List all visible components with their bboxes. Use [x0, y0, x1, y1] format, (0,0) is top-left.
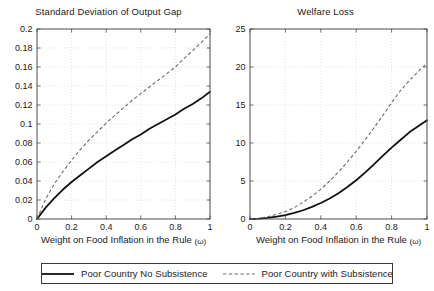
x-tick-label: 0	[34, 222, 39, 232]
y-tick-label: 0	[240, 214, 245, 224]
y-tick-label: 0.14	[15, 81, 33, 91]
y-tick-label: 0.06	[15, 157, 33, 167]
chart-panel-standard-deviation: Standard Deviation of Output Gap 00.020.…	[0, 0, 217, 256]
x-tick-label: 0.8	[169, 222, 182, 232]
x-tick-label: 0.6	[135, 222, 148, 232]
legend-entry-with-subsistence: Poor Country with Subsistence	[222, 268, 393, 279]
y-tick-label: 0	[27, 214, 32, 224]
legend-label-no-subsistence: Poor Country No Subsistence	[81, 268, 208, 279]
x-tick-label: 1	[207, 222, 212, 232]
x-tick-label: 0	[247, 222, 252, 232]
y-tick-label: 10	[235, 138, 245, 148]
y-tick-label: 0.12	[15, 100, 33, 110]
legend-sample-solid-line	[41, 269, 75, 279]
legend-entry-no-subsistence: Poor Country No Subsistence	[41, 268, 208, 279]
y-tick-label: 0.18	[15, 43, 33, 53]
y-tick-label: 0.16	[15, 62, 33, 72]
x-axis-label: Weight on Food Inflation in the Rule (ω)	[256, 234, 421, 246]
x-tick-label: 0.8	[385, 222, 398, 232]
legend: Poor Country No Subsistence Poor Country…	[41, 263, 393, 284]
x-tick-label: 0.2	[65, 222, 78, 232]
plot-area-left: 00.020.040.060.080.10.120.140.160.180.20…	[0, 0, 217, 256]
y-tick-label: 0.08	[15, 138, 33, 148]
axis-frame	[250, 29, 427, 219]
x-tick-label: 1	[424, 222, 429, 232]
legend-label-with-subsistence: Poor Country with Subsistence	[262, 268, 393, 279]
y-tick-label: 0.02	[15, 195, 33, 205]
figure-container: Standard Deviation of Output Gap 00.020.…	[0, 0, 434, 291]
legend-sample-dashed-line	[222, 269, 256, 279]
chart-panel-welfare-loss: Welfare Loss 051015202500.20.40.60.81Wei…	[217, 0, 434, 256]
y-tick-label: 20	[235, 62, 245, 72]
y-tick-label: 25	[235, 24, 245, 34]
y-tick-label: 15	[235, 100, 245, 110]
y-tick-label: 0.04	[15, 176, 33, 186]
y-tick-label: 0.2	[20, 24, 33, 34]
x-tick-label: 0.4	[315, 222, 328, 232]
x-tick-label: 0.6	[350, 222, 363, 232]
x-tick-label: 0.4	[100, 222, 113, 232]
y-tick-label: 0.1	[20, 119, 33, 129]
x-tick-label: 0.2	[279, 222, 292, 232]
series-line-solid	[250, 120, 427, 219]
x-axis-label: Weight on Food Inflation in the Rule (ω)	[41, 234, 206, 246]
series-line-dashed	[37, 34, 210, 219]
y-tick-label: 5	[240, 176, 245, 186]
plot-area-right: 051015202500.20.40.60.81Weight on Food I…	[217, 0, 434, 256]
